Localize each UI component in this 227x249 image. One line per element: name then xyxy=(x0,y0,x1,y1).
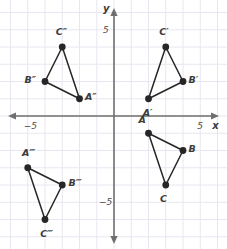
vertex-label: B‴ xyxy=(69,178,82,188)
vertex-point xyxy=(42,78,49,85)
vertex-point xyxy=(145,130,152,137)
y-tick-1: −5 xyxy=(99,198,112,207)
vertex-label: A″ xyxy=(85,92,97,102)
vertex-label: C‴ xyxy=(40,229,53,239)
vertex-label: B xyxy=(188,144,195,154)
axis-lines xyxy=(8,8,219,244)
vertex-point xyxy=(24,164,31,171)
y-axis-label: y xyxy=(103,4,110,14)
x-axis-label: x xyxy=(212,121,218,131)
vertex-label: C′ xyxy=(159,27,168,37)
vertex-point xyxy=(59,44,66,51)
y-tick-0: 5 xyxy=(103,26,109,35)
vertex-point xyxy=(180,78,187,85)
vertex-point xyxy=(162,182,169,189)
vertex-label: B″ xyxy=(25,75,37,85)
x-tick-0: −5 xyxy=(24,122,37,131)
coordinate-plane-figure: −555−5 ABCA′B′C′A″B″C″A‴B‴C‴ x y xyxy=(0,0,227,249)
vertex-point xyxy=(180,147,187,154)
vertex-label: A‴ xyxy=(22,148,35,158)
vertex-point xyxy=(162,44,169,51)
x-tick-1: 5 xyxy=(197,122,203,131)
vertex-label: C″ xyxy=(56,27,67,37)
vertex-label: A′ xyxy=(143,108,153,118)
vertex-point xyxy=(76,95,83,102)
vertex-point xyxy=(42,216,49,223)
vertex-point xyxy=(145,95,152,102)
vertex-label: C xyxy=(160,194,167,204)
vertex-label: B′ xyxy=(188,75,198,85)
vertex-point xyxy=(59,182,66,189)
